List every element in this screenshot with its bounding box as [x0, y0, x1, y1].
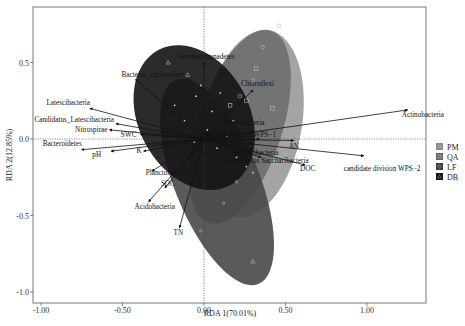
vector-label-soc: SOC — [161, 180, 175, 188]
vector-label-acidobacteria: Acidobacteria — [135, 203, 176, 211]
vector-label-an: AN — [289, 143, 300, 151]
vector-label-gemmatimonadetes: Gemmatimonadetes — [177, 53, 235, 61]
vector-label-ph: pH — [92, 151, 101, 159]
legend-swatch-lf — [436, 163, 443, 170]
legend-label-pm: PM — [447, 143, 459, 152]
y-tick-label: 0.0 — [19, 135, 29, 144]
vector-label-proteobacteria: Proteobacteria — [223, 119, 265, 127]
point-faint — [219, 92, 221, 94]
x-tick-label: 1.00 — [360, 306, 374, 315]
y-tick-label: -1.0 — [16, 288, 29, 297]
x-tick-label: -0.50 — [114, 306, 131, 315]
y-tick-label: -0.5 — [16, 212, 29, 221]
point-faint — [216, 147, 218, 149]
vector-label-latescibacteria: Latescibacteria — [46, 99, 90, 107]
x-axis-label: RDA 1(70.01%) — [204, 309, 257, 318]
vector-label-swc: SWC — [121, 131, 137, 139]
legend-swatch-db — [436, 173, 443, 180]
x-tick-label: 0.50 — [279, 306, 293, 315]
legend-label-db: DB — [447, 173, 458, 182]
vector-label-doc: DOC — [300, 165, 315, 173]
rda-biplot: Actinobacteriacandidate division WPS−2AN… — [0, 0, 465, 326]
point-faint — [195, 95, 197, 97]
y-axis-label: RDA 2(12.85%) — [5, 128, 14, 181]
point-faint — [174, 104, 176, 106]
vector-label-k: K — [136, 147, 142, 155]
point-faint — [252, 172, 254, 174]
vector-label-candidatus-saccharibacteria: Candidatus Saccharibacteria — [227, 157, 309, 165]
x-tick-label: -1.00 — [33, 306, 50, 315]
legend-swatch-qa — [436, 153, 443, 160]
legend-swatch-pm — [436, 143, 443, 150]
point-faint — [200, 85, 202, 87]
vector-label-nitrospirae: Nitrospirae — [75, 126, 107, 134]
vector-label-bacteroidetes: Bacteroidetes — [43, 140, 82, 148]
point-faint — [211, 111, 213, 113]
y-tick-label: 0.5 — [19, 59, 29, 68]
vector-label-candidatus-latescibacteria: Candidatus_Latescibacteria — [35, 116, 115, 124]
vector-label-candidate-division-wps-2: candidate division WPS−2 — [344, 165, 421, 173]
legend-label-qa: QA — [447, 153, 459, 162]
vector-label-planctomycetes: Planctomycetes — [146, 169, 191, 177]
vector-label-chloroflexi: Chloroflexi — [241, 80, 274, 88]
vector-label-actinobacteria: Actinobacteria — [402, 111, 445, 119]
vector-label-tn: TN — [174, 229, 184, 237]
point-faint — [245, 166, 247, 168]
vector-label-bacteria-unclassified: Bacteria_unclassified — [122, 71, 184, 79]
legend-label-lf: LF — [447, 163, 457, 172]
